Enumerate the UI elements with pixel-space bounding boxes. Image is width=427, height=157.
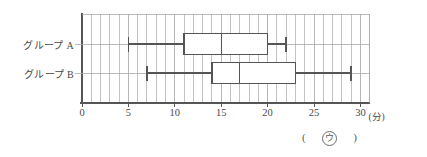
open-paren: ( [300, 131, 308, 143]
answer-annotation: (ウ) [300, 131, 410, 146]
x-tick-label: 5 [126, 107, 131, 118]
x-tick-label: 15 [216, 107, 227, 118]
boxplot-group-b [147, 63, 351, 84]
x-tick-label: 0 [79, 107, 84, 118]
x-tick-label: 10 [170, 107, 181, 118]
answer-marker: ウ [322, 131, 337, 146]
plot-frame [80, 13, 370, 104]
x-axis-unit-label: (分) [368, 109, 384, 123]
category-label-group-a: グループ A [23, 37, 74, 52]
box-iqr [184, 34, 268, 55]
grid-lines [82, 14, 370, 103]
boxplot-group-a [128, 34, 286, 55]
x-tick-label: 30 [355, 107, 366, 118]
x-tick-label: 20 [262, 107, 273, 118]
box-plot-figure: 051015202530(分)グループ Aグループ B(ウ) [0, 0, 427, 157]
x-tick-label: 25 [309, 107, 320, 118]
category-label-group-b: グループ B [24, 66, 74, 81]
box-iqr [212, 63, 296, 84]
close-paren: ) [351, 131, 359, 143]
